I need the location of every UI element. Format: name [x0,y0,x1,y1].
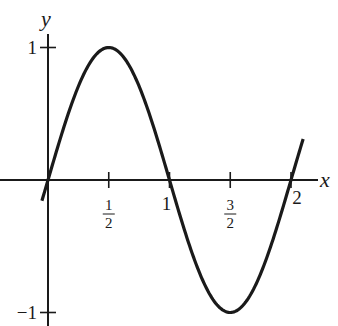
y-axis-label: y [39,6,51,31]
x-tick-label: 2 [292,187,302,208]
x-tick-label-numerator: 3 [227,197,235,213]
x-tick-label: 1 [162,193,172,214]
y-tick-label: 1 [28,37,38,58]
x-axis-label: x [319,167,330,192]
x-tick-label-denominator: 2 [105,215,113,231]
x-tick-label-denominator: 2 [227,215,235,231]
chart: x y 1213221−1 [0,0,338,326]
y-tick-label: −1 [17,302,37,323]
x-tick-label-numerator: 1 [105,197,113,213]
